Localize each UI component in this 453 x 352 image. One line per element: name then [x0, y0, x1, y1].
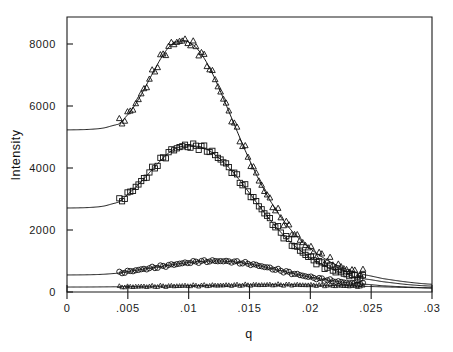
- x-tick-label: .015: [238, 302, 262, 314]
- data-point: [360, 266, 366, 271]
- y-tick-label: 2000: [29, 224, 56, 236]
- x-tick-label: .005: [116, 302, 140, 314]
- x-axis-ticks: 0.005.01.015.02.025.03: [64, 285, 441, 314]
- y-tick-label: 4000: [29, 162, 56, 174]
- data-point: [275, 205, 281, 210]
- y-axis-title: Intensity: [9, 129, 23, 180]
- data-point: [327, 254, 333, 259]
- data-series-group: [67, 36, 432, 289]
- x-axis-title: q: [245, 327, 252, 341]
- x-tick-label: .02: [302, 302, 319, 314]
- chart-plot-area: 02000400060008000 0.005.01.015.02.025.03…: [0, 0, 453, 352]
- fit-line-curve-2: [67, 146, 432, 286]
- fit-line-curve-3: [67, 261, 432, 288]
- data-series-curve-1: [67, 36, 432, 284]
- y-tick-label: 6000: [29, 100, 56, 112]
- data-point: [116, 115, 122, 120]
- data-point: [190, 38, 196, 43]
- chart-figure: 02000400060008000 0.005.01.015.02.025.03…: [0, 0, 453, 352]
- x-tick-label: .025: [359, 302, 383, 314]
- y-tick-label: 8000: [29, 38, 56, 50]
- plot-frame: [67, 17, 432, 292]
- y-tick-label: 0: [49, 286, 56, 298]
- y-axis-ticks: 02000400060008000: [29, 38, 73, 298]
- fit-line-curve-1: [67, 41, 432, 284]
- x-tick-label: .01: [180, 302, 197, 314]
- x-tick-label: 0: [64, 302, 71, 314]
- data-series-curve-3: [67, 258, 432, 288]
- x-tick-label: .03: [423, 302, 440, 314]
